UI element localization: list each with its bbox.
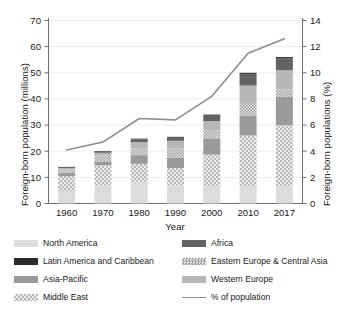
- bar-segment-asia_pacific: [58, 173, 75, 177]
- bar-segment-middle_east: [276, 125, 293, 186]
- legend-item-eastern-europe-central-asia[interactable]: Eastern Europe & Central Asia: [182, 256, 351, 266]
- legend-swatch-latin-america-and-caribbean: [14, 258, 38, 265]
- y2-tick-label: 14: [310, 15, 321, 26]
- x-tick-label: 1960: [56, 207, 77, 218]
- bar-segment-africa: [131, 139, 148, 142]
- bar-segment-western_europe: [240, 86, 257, 104]
- bar-segment-north_america: [240, 187, 257, 204]
- bar-segment-western_europe: [276, 70, 293, 89]
- bar-segment-latin_america_caribbean: [94, 151, 111, 152]
- bar-segment-western_europe: [203, 121, 220, 130]
- x-tick-label: 2017: [274, 207, 295, 218]
- bar-segment-eastern_europe_central_asia: [131, 148, 148, 155]
- y-axis-left-ticks: [45, 21, 49, 204]
- bar-segment-north_america: [94, 185, 111, 203]
- y-axis-right-tick-labels: 14 12 10 8 6 4 2 0: [310, 15, 321, 209]
- stacked-bars: [58, 57, 293, 203]
- bar-segment-eastern_europe_central_asia: [167, 149, 184, 158]
- chart-plot-area: 70 60 50 40 30 20 10 0 14 12 10 8 6 4 2 …: [0, 0, 351, 234]
- legend-item-western-europe[interactable]: Western Europe: [182, 274, 351, 284]
- legend-label: Africa: [211, 238, 233, 248]
- chart-container: 70 60 50 40 30 20 10 0 14 12 10 8 6 4 2 …: [0, 0, 351, 320]
- bar-segment-asia_pacific: [276, 97, 293, 125]
- bar-segment-western_europe: [94, 153, 111, 155]
- bar-segment-middle_east: [240, 136, 257, 187]
- legend-label: Eastern Europe & Central Asia: [211, 256, 328, 266]
- x-tick-label: 1970: [92, 207, 113, 218]
- y-tick-label: 60: [30, 41, 41, 52]
- bar-segment-north_america: [131, 183, 148, 204]
- bar-segment-eastern_europe_central_asia: [240, 104, 257, 116]
- y2-tick-label: 6: [310, 119, 315, 130]
- legend-label: North America: [43, 238, 97, 248]
- legend-item-middle-east[interactable]: Middle East: [14, 292, 182, 302]
- y-tick-label: 70: [30, 15, 41, 26]
- x-tick-label: 2010: [237, 207, 258, 218]
- x-axis-title: Year: [165, 221, 185, 232]
- bar-segment-middle_east: [131, 164, 148, 183]
- bar-segment-latin_america_caribbean: [131, 139, 148, 140]
- bar-segment-western_europe: [131, 142, 148, 148]
- x-axis-tick-labels: 1960197019801990200020102017: [56, 207, 295, 218]
- bar-segment-north_america: [203, 187, 220, 204]
- bar-segment-middle_east: [167, 168, 184, 185]
- legend-label: % of population: [211, 292, 270, 302]
- x-tick-label: 1980: [129, 207, 150, 218]
- y-tick-label: 0: [36, 198, 41, 209]
- legend-swatch-pct-of-population: [182, 297, 206, 298]
- bar-segment-latin_america_caribbean: [276, 57, 293, 58]
- bar-segment-asia_pacific: [240, 116, 257, 136]
- bar-segment-middle_east: [203, 155, 220, 187]
- legend-item-pct-of-population[interactable]: % of population: [182, 292, 351, 302]
- y-axis-title: Foreign-born population (millions): [19, 63, 30, 206]
- bar-segment-asia_pacific: [94, 162, 111, 165]
- y2-tick-label: 12: [310, 41, 321, 52]
- bar-segment-asia_pacific: [167, 157, 184, 167]
- bar-segment-eastern_europe_central_asia: [94, 155, 111, 162]
- legend-label: Latin America and Caribbean: [43, 256, 154, 266]
- y-axis-left-tick-labels: 70 60 50 40 30 20 10 0: [30, 15, 41, 209]
- bar-segment-latin_america_caribbean: [240, 73, 257, 74]
- bar-segment-middle_east: [58, 176, 75, 191]
- y2-tick-label: 4: [310, 146, 316, 157]
- bar-segment-eastern_europe_central_asia: [58, 169, 75, 172]
- y2-tick-label: 0: [310, 198, 315, 209]
- legend-swatch-north-america: [14, 240, 38, 247]
- bar-segment-africa: [58, 167, 75, 168]
- bar-segment-north_america: [58, 191, 75, 204]
- y2-tick-label: 8: [310, 93, 315, 104]
- bar-segment-africa: [94, 152, 111, 153]
- y2-axis-title: Foreign-born populations (%): [321, 82, 332, 206]
- bar-segment-eastern_europe_central_asia: [203, 130, 220, 138]
- legend-item-latin-america-and-caribbean[interactable]: Latin America and Caribbean: [14, 256, 182, 266]
- bar-segment-western_europe: [167, 141, 184, 149]
- y-tick-label: 40: [30, 93, 41, 104]
- y-tick-label: 50: [30, 67, 41, 78]
- bar-segment-eastern_europe_central_asia: [276, 89, 293, 97]
- bar-segment-western_europe: [58, 168, 75, 169]
- legend-item-asia-pacific[interactable]: Asia-Pacific: [14, 274, 182, 284]
- legend-item-africa[interactable]: Africa: [182, 238, 351, 248]
- legend-item-north-america[interactable]: North America: [14, 238, 182, 248]
- bar-segment-latin_america_caribbean: [58, 167, 75, 168]
- legend-swatch-africa: [182, 240, 206, 247]
- legend-swatch-eastern-europe-central-asia: [182, 258, 206, 265]
- legend-swatch-asia-pacific: [14, 276, 38, 283]
- y-tick-label: 30: [30, 119, 41, 130]
- x-tick-label: 1990: [165, 207, 186, 218]
- y-tick-label: 10: [30, 172, 41, 183]
- bar-segment-north_america: [276, 187, 293, 204]
- legend-swatch-middle-east: [14, 294, 38, 301]
- bar-segment-africa: [240, 74, 257, 86]
- bar-segment-latin_america_caribbean: [203, 115, 220, 116]
- x-tick-label: 2000: [201, 207, 222, 218]
- bar-segment-asia_pacific: [131, 155, 148, 164]
- legend-label: Western Europe: [211, 274, 273, 284]
- bar-segment-africa: [167, 138, 184, 141]
- bar-segment-latin_america_caribbean: [167, 137, 184, 138]
- y-axis-right-ticks: [303, 21, 307, 204]
- bar-segment-north_america: [167, 185, 184, 203]
- chart-legend: North America Africa Latin America and C…: [14, 234, 344, 306]
- y-tick-label: 20: [30, 146, 41, 157]
- legend-swatch-western-europe: [182, 276, 206, 283]
